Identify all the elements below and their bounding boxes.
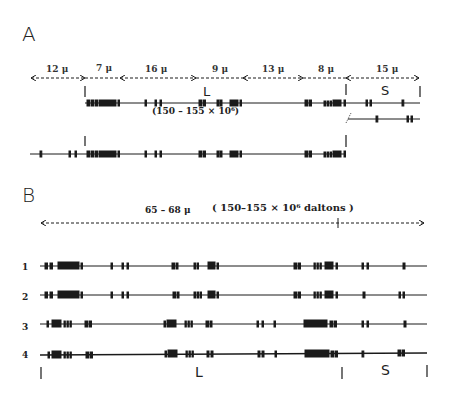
panel-a-molecule-1 [85, 100, 420, 106]
panel-b-molecule-1 [40, 262, 427, 269]
panel-a-s-branch [346, 113, 420, 123]
panel-b-boundary-ticks [41, 365, 427, 379]
panel-b-scale-arrow [41, 218, 424, 228]
panel-b-molecule-4 [40, 350, 427, 358]
panel-b-molecule-2 [40, 291, 427, 298]
panel-a-boundary-ticks [85, 84, 420, 147]
panel-b-molecule-3 [40, 320, 427, 327]
diagram-canvas [0, 0, 450, 396]
panel-a-molecule-2 [30, 151, 346, 157]
